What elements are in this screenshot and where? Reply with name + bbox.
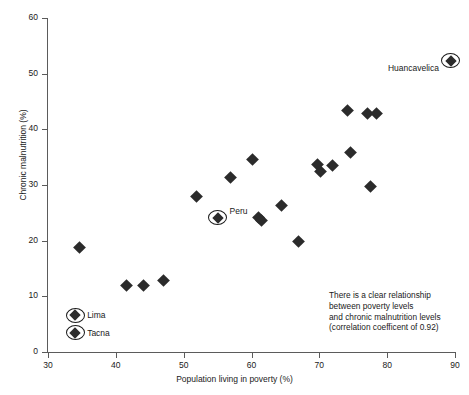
y-tick-0 [42,352,47,353]
data-point[interactable] [365,180,378,193]
x-tick-70 [319,353,320,358]
annotation-line-4: (correlation coefficent of 0.92) [329,322,441,333]
y-tick-50 [42,74,47,75]
x-tick-60 [252,353,253,358]
data-point[interactable] [344,146,357,159]
data-point[interactable] [157,274,170,287]
x-tick-30 [48,353,49,358]
data-point[interactable] [224,171,237,184]
y-axis-title: Chronic malnutrition (%) [18,75,28,235]
annotation-line-1: There is a clear relationship [329,290,441,301]
scatter-chart: 0102030405060 30405060708090 Chronic mal… [0,0,469,395]
data-point[interactable] [275,199,288,212]
point-label-lima: Lima [87,310,105,320]
data-point[interactable] [73,241,86,254]
x-tick-label-50: 50 [172,360,196,370]
x-axis-title: Population living in poverty (%) [0,374,469,384]
y-tick-60 [42,18,47,19]
data-point[interactable] [341,105,354,118]
x-tick-40 [116,353,117,358]
x-tick-80 [387,353,388,358]
data-point[interactable] [246,154,259,167]
y-tick-label-10: 10 [16,290,38,300]
data-point[interactable] [120,279,133,292]
x-tick-label-80: 80 [375,360,399,370]
x-tick-label-60: 60 [240,360,264,370]
y-tick-10 [42,296,47,297]
x-tick-50 [184,353,185,358]
point-label-peru: Peru [230,206,248,216]
x-tick-label-30: 30 [36,360,60,370]
x-tick-label-90: 90 [443,360,467,370]
y-axis-line [47,18,48,353]
x-tick-label-40: 40 [104,360,128,370]
data-point[interactable] [326,159,339,172]
correlation-annotation: There is a clear relationshipbetween pov… [329,290,441,333]
data-point[interactable] [292,235,305,248]
annotation-line-3: and chronic malnutrition levels [329,312,441,323]
point-label-huancavelica: Huancavelica [388,63,439,73]
annotation-line-2: between poverty levels [329,301,441,312]
x-tick-90 [455,353,456,358]
data-point[interactable] [137,279,150,292]
y-tick-20 [42,241,47,242]
data-point[interactable] [370,107,383,120]
x-tick-label-70: 70 [307,360,331,370]
y-tick-40 [42,129,47,130]
data-point[interactable] [190,190,203,203]
y-tick-label-20: 20 [16,235,38,245]
y-tick-label-0: 0 [16,346,38,356]
y-tick-label-60: 60 [16,12,38,22]
point-label-tacna: Tacna [87,328,110,338]
y-tick-30 [42,185,47,186]
